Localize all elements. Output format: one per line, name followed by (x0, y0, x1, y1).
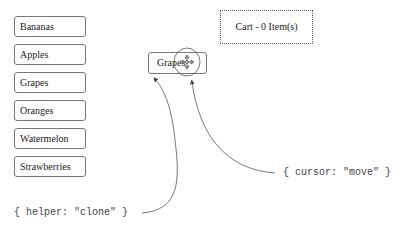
cursor-option-annotation: { cursor: "move" } (283, 167, 391, 178)
cursor-arrow (192, 82, 275, 173)
helper-arrow (142, 79, 177, 213)
annotation-overlay (0, 0, 408, 231)
move-cursor-icon (180, 55, 194, 69)
helper-option-annotation: { helper: "clone" } (14, 207, 128, 218)
